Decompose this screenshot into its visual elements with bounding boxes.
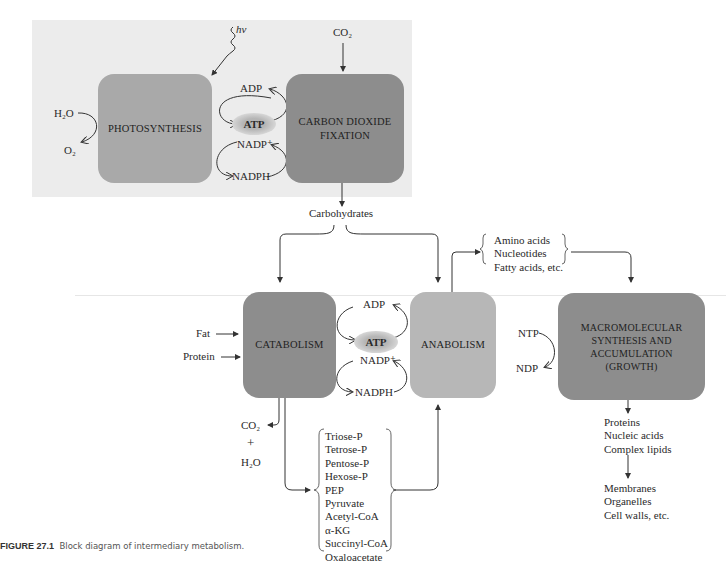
list-item: Nucleic acids — [604, 429, 672, 442]
list-item: Triose-P — [325, 430, 388, 443]
list-item: Hexose-P — [325, 470, 388, 483]
list-item: Succinyl-CoA — [325, 537, 388, 550]
adp-label-mid: ADP — [363, 298, 385, 310]
ntp-label: NTP — [518, 327, 539, 339]
macromolecular-label-2: SYNTHESIS AND — [591, 334, 671, 347]
list-item: PEP — [325, 484, 388, 497]
adp-label-top: ADP — [240, 82, 262, 94]
light-energy-label: hν — [236, 23, 246, 35]
nadp-label-top: NADP⁺ — [237, 138, 273, 151]
list-item: Pentose-P — [325, 457, 388, 470]
photosynthesis-box: PHOTOSYNTHESIS — [98, 74, 212, 183]
ndp-label: NDP — [516, 362, 538, 374]
atp-label-mid: ATP — [354, 331, 398, 353]
list-item: Fatty acids, etc. — [494, 261, 563, 274]
building-blocks-list: Amino acids Nucleotides Fatty acids, etc… — [494, 234, 563, 274]
h2o-output-label: H₂O — [241, 456, 261, 468]
macromolecular-label-3: ACCUMULATION — [590, 347, 672, 360]
list-item: Nucleotides — [494, 247, 563, 260]
macromolecule-products-list: Proteins Nucleic acids Complex lipids — [604, 416, 672, 456]
co2-fixation-label-2: FIXATION — [320, 129, 370, 143]
list-item: Tetrose-P — [325, 443, 388, 456]
list-item: α-KG — [325, 524, 388, 537]
figure-caption: FIGURE 27.1 Block diagram of intermediar… — [0, 541, 244, 551]
co2-input-label: CO₂ — [333, 26, 352, 38]
co2-fixation-box: CARBON DIOXIDE FIXATION — [286, 74, 404, 183]
macromolecular-label-4: (GROWTH) — [605, 360, 657, 373]
catabolism-label: CATABOLISM — [255, 338, 323, 352]
macromolecular-label-1: MACROMOLECULAR — [581, 321, 683, 334]
macromolecular-box: MACROMOLECULAR SYNTHESIS AND ACCUMULATIO… — [558, 293, 705, 400]
intermediates-list: Triose-P Tetrose-P Pentose-P Hexose-P PE… — [325, 430, 388, 562]
anabolism-box: ANABOLISM — [410, 292, 496, 398]
catabolism-box: CATABOLISM — [243, 292, 336, 398]
plus-sign: + — [247, 435, 254, 451]
photosynthesis-label: PHOTOSYNTHESIS — [108, 122, 202, 136]
figure-caption-text: Block diagram of intermediary metabolism… — [59, 541, 244, 551]
list-item: Proteins — [604, 416, 672, 429]
atp-label-top: ATP — [232, 113, 276, 135]
list-item: Cell walls, etc. — [604, 509, 669, 522]
figure-number: FIGURE 27.1 — [0, 541, 54, 551]
anabolism-label: ANABOLISM — [421, 338, 485, 352]
list-item: Oxaloacetate — [325, 551, 388, 562]
list-item: Membranes — [604, 482, 669, 495]
list-item: Acetyl-CoA — [325, 510, 388, 523]
nadp-label-mid: NADP⁺ — [360, 354, 396, 367]
list-item: Organelles — [604, 495, 669, 508]
nadph-label-mid: NADPH — [355, 386, 393, 398]
list-item: Amino acids — [494, 234, 563, 247]
fat-input-label: Fat — [196, 327, 210, 339]
list-item: Pyruvate — [325, 497, 388, 510]
h2o-input-label: H₂O — [54, 107, 74, 119]
o2-output-label: O₂ — [64, 144, 76, 156]
cell-structures-list: Membranes Organelles Cell walls, etc. — [604, 482, 669, 522]
nadph-label-top: NADPH — [232, 170, 270, 182]
protein-input-label: Protein — [183, 350, 215, 362]
carbohydrates-label: Carbohydrates — [309, 207, 373, 219]
co2-output-label: CO₂ — [241, 419, 260, 431]
list-item: Complex lipids — [604, 443, 672, 456]
co2-fixation-label-1: CARBON DIOXIDE — [299, 115, 392, 129]
